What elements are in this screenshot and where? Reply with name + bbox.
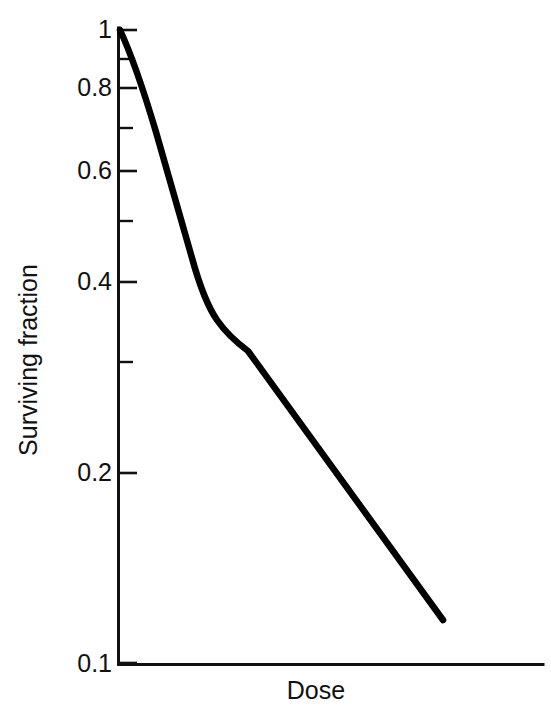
y-tick-label-0-6: 0.6 xyxy=(77,156,112,184)
y-axis-title: Surviving fraction xyxy=(14,264,42,456)
y-tick-label-0-2: 0.2 xyxy=(77,458,112,486)
y-tick-label-1: 1 xyxy=(98,15,112,43)
chart-figure: 1 0.8 0.6 0.4 0.2 0.1 Surviving fraction… xyxy=(0,0,551,714)
y-tick-label-0-4: 0.4 xyxy=(77,267,112,295)
y-tick-label-0-8: 0.8 xyxy=(77,73,112,101)
figure-background xyxy=(0,0,551,714)
y-tick-label-0-1: 0.1 xyxy=(77,649,112,677)
survival-curve-plot: 1 0.8 0.6 0.4 0.2 0.1 Surviving fraction… xyxy=(0,0,551,714)
x-axis-title: Dose xyxy=(287,676,345,704)
